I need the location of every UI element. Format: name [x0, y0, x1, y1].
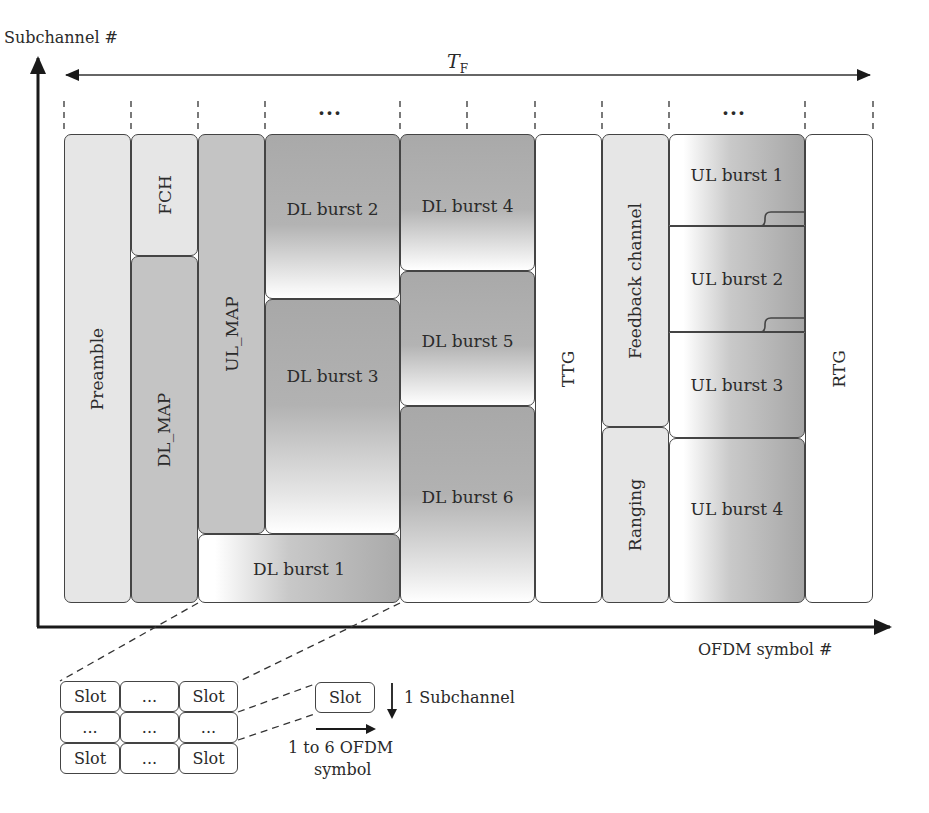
feedback-channel-block: Feedback channel: [602, 134, 669, 427]
ul-burst-2-label: UL burst 2: [691, 269, 784, 289]
rtg-block: RTG: [805, 134, 873, 603]
dl-burst-3-label: DL burst 3: [286, 366, 378, 386]
dl-burst-2-block: DL burst 2: [265, 134, 400, 299]
ul-burst-3-label: UL burst 3: [691, 375, 784, 395]
ul-map-block: UL_MAP: [198, 134, 265, 534]
slot-cell: Slot: [179, 681, 238, 712]
rtg-label: RTG: [829, 350, 849, 387]
dl-burst-2-label: DL burst 2: [286, 199, 378, 219]
ul-burst-4-label: UL burst 4: [691, 499, 784, 519]
frame-duration-label: TF: [447, 50, 468, 76]
slot-cell: Slot: [60, 681, 120, 712]
fch-label: FCH: [154, 175, 174, 215]
dl-burst-4-label: DL burst 4: [421, 196, 513, 216]
dl-map-block: DL_MAP: [131, 256, 198, 603]
slot-cell: Slot: [60, 743, 120, 774]
dl-burst-6-block: DL burst 6: [400, 406, 535, 603]
dl-burst-5-label: DL burst 5: [421, 331, 513, 351]
preamble-block: Preamble: [64, 134, 131, 603]
ul-burst-1-label: UL burst 1: [691, 165, 784, 185]
ttg-block: TTG: [535, 134, 602, 603]
symbol-legend-label-line2: symbol: [314, 760, 371, 779]
symbol-legend-label-line1: 1 to 6 OFDM: [288, 738, 393, 757]
slot-cell: ...: [120, 712, 179, 743]
y-axis-label: Subchannel #: [4, 28, 118, 47]
x-axis-label: OFDM symbol #: [698, 640, 832, 659]
dl-burst-1-block: DL burst 1: [198, 534, 400, 603]
ranging-block: Ranging: [602, 427, 669, 603]
subchannel-legend-label: 1 Subchannel: [404, 688, 515, 707]
ranging-label: Ranging: [626, 479, 646, 551]
slot-cell: Slot: [179, 743, 238, 774]
slot-cell: ...: [60, 712, 120, 743]
slot-cell: ...: [120, 681, 179, 712]
ul-burst-1-block: UL burst 1: [669, 134, 805, 226]
fch-block: FCH: [131, 134, 198, 256]
ttg-label: TTG: [558, 350, 578, 387]
ul-map-label: UL_MAP: [222, 296, 242, 371]
ellipsis-marker-dl: ...: [318, 96, 342, 120]
dl-map-label: DL_MAP: [155, 392, 175, 467]
feedback-channel-label: Feedback channel: [626, 202, 646, 358]
dl-burst-1-label: DL burst 1: [253, 559, 345, 579]
preamble-label: Preamble: [88, 327, 108, 409]
dl-burst-6-label: DL burst 6: [421, 487, 513, 507]
ul-burst-4-block: UL burst 4: [669, 438, 805, 603]
ul-burst-2-block: UL burst 2: [669, 226, 805, 332]
slot-cell: ...: [120, 743, 179, 774]
symbol-boundary-ticks: [64, 101, 873, 134]
dl-burst-3-block: DL burst 3: [265, 299, 400, 534]
slot-legend-box: Slot: [315, 682, 375, 713]
dl-burst-4-block: DL burst 4: [400, 134, 535, 271]
slot-cell: ...: [179, 712, 238, 743]
ul-burst-3-block: UL burst 3: [669, 332, 805, 438]
ellipsis-marker-ul: ...: [722, 96, 746, 120]
dl-burst-5-block: DL burst 5: [400, 271, 535, 406]
